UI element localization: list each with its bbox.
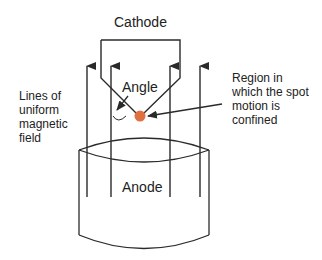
region-pointer [148,104,222,116]
cathode-spot [135,111,146,122]
diagram-canvas: Cathode Anode Angle Lines of uniform mag… [0,0,322,260]
angle-label: Angle [122,80,158,94]
region-label: Region in which the spot motion is confi… [232,71,309,127]
cathode-shape [101,40,180,114]
anode-label: Anode [122,180,162,194]
cathode-label: Cathode [114,15,167,29]
field-label: Lines of uniform magnetic field [19,89,68,145]
angle-arc [113,116,126,120]
